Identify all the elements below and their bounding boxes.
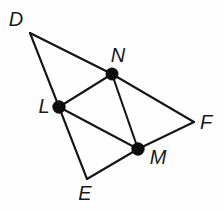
point-label-n: N <box>111 44 126 66</box>
vertex-dot-l <box>53 101 66 114</box>
segment-DN <box>30 33 112 74</box>
point-label-l: L <box>38 95 49 117</box>
segment-EM <box>87 149 138 179</box>
segment-LE <box>59 107 87 179</box>
vertex-dot-m <box>132 143 145 156</box>
geometry-figure: DNLMFE <box>0 0 224 211</box>
segment-MF <box>138 122 194 149</box>
segment-LN <box>59 74 112 107</box>
point-label-m: M <box>150 146 167 168</box>
vertex-dot-n <box>106 68 118 80</box>
figure-canvas: DNLMFE <box>0 0 224 211</box>
point-label-e: E <box>78 182 92 204</box>
point-label-f: F <box>200 111 214 133</box>
segment-NF <box>112 74 194 122</box>
point-label-d: D <box>9 8 23 30</box>
